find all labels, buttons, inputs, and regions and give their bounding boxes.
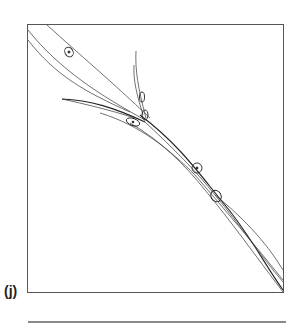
panel-label: (j) xyxy=(4,283,17,299)
fiber-drawing xyxy=(0,0,304,334)
bottom-rule xyxy=(28,321,286,323)
